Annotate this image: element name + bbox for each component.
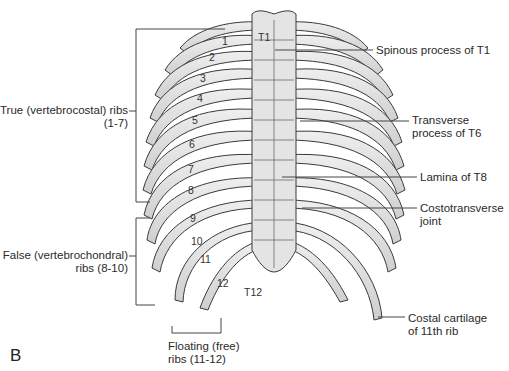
svg-text:8: 8 bbox=[188, 184, 194, 196]
costotransverse-joint-label: Costotransverse joint bbox=[420, 202, 504, 228]
true-ribs-label: True (vertebrocostal) ribs (1-7) bbox=[0, 104, 128, 130]
svg-text:2: 2 bbox=[209, 51, 215, 63]
transverse-process-t6-label: Transverse process of T6 bbox=[412, 114, 481, 140]
svg-text:7: 7 bbox=[188, 163, 194, 175]
costal-cartilage-line2: of 11th rib bbox=[408, 325, 487, 338]
svg-text:6: 6 bbox=[189, 138, 195, 150]
svg-text:9: 9 bbox=[190, 212, 196, 224]
false-ribs-line2: ribs (8-10) bbox=[0, 262, 128, 275]
costotransverse-line1: Costotransverse bbox=[420, 202, 504, 215]
svg-text:11: 11 bbox=[200, 253, 211, 265]
panel-letter: B bbox=[10, 346, 21, 366]
transverse-process-line2: process of T6 bbox=[412, 127, 481, 140]
svg-text:T1: T1 bbox=[258, 31, 270, 43]
floating-ribs-line1: Floating (free) bbox=[168, 340, 240, 353]
costotransverse-line2: joint bbox=[420, 215, 504, 228]
svg-text:5: 5 bbox=[192, 114, 198, 126]
spinous-process-t1-label: Spinous process of T1 bbox=[376, 44, 490, 57]
true-ribs-line2: (1-7) bbox=[0, 117, 128, 130]
svg-text:T12: T12 bbox=[244, 286, 262, 298]
floating-ribs-label: Floating (free) ribs (11-12) bbox=[168, 340, 240, 366]
transverse-process-line1: Transverse bbox=[412, 114, 481, 127]
false-ribs-line1: False (vertebrochondral) bbox=[0, 249, 128, 262]
false-ribs-label: False (vertebrochondral) ribs (8-10) bbox=[0, 249, 128, 275]
lamina-text: Lamina of T8 bbox=[420, 171, 487, 184]
spinous-process-text: Spinous process of T1 bbox=[376, 44, 490, 57]
true-ribs-line1: True (vertebrocostal) ribs bbox=[0, 104, 128, 117]
lamina-t8-label: Lamina of T8 bbox=[420, 171, 487, 184]
svg-text:12: 12 bbox=[217, 277, 229, 289]
floating-ribs-line2: ribs (11-12) bbox=[168, 353, 240, 366]
costal-cartilage-line1: Costal cartilage bbox=[408, 312, 487, 325]
svg-text:10: 10 bbox=[191, 235, 203, 247]
svg-text:4: 4 bbox=[197, 92, 203, 104]
svg-text:1: 1 bbox=[222, 35, 228, 47]
svg-text:3: 3 bbox=[200, 72, 206, 84]
costal-cartilage-label: Costal cartilage of 11th rib bbox=[408, 312, 487, 338]
